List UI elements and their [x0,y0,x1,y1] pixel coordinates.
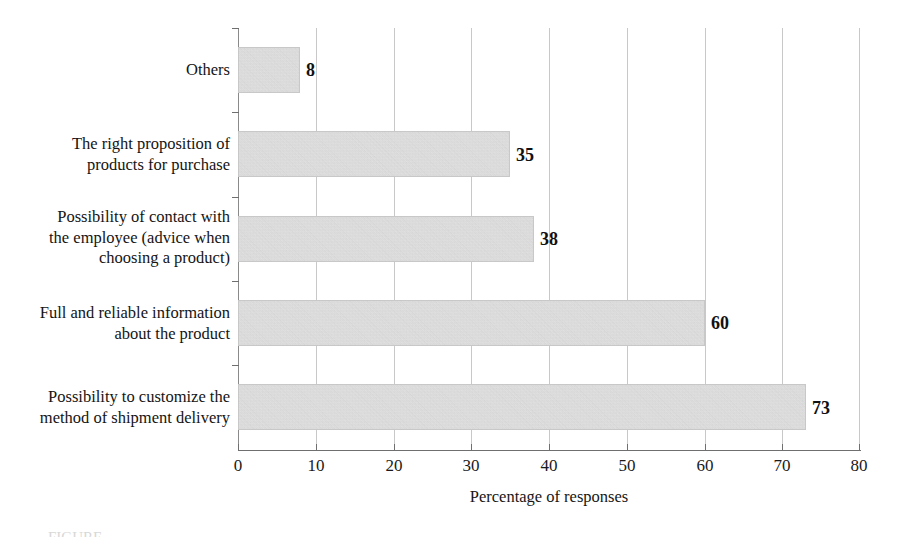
x-tick-label-50: 50 [597,456,657,476]
category-label-line: The right proposition of [8,134,230,155]
x-tick-60 [705,444,706,451]
x-tick-label-0: 0 [208,456,268,476]
x-tick-label-80: 80 [829,456,889,476]
gridline-80 [859,28,860,450]
bar-others [238,47,300,93]
category-label-line: choosing a product) [8,248,230,269]
bar-contact-with-employee [238,216,534,262]
category-label-line: Others [8,60,230,81]
x-tick-20 [394,444,395,451]
category-label-line: products for purchase [8,155,230,176]
category-label-right-proposition: The right proposition of products for pu… [8,134,230,175]
x-tick-label-40: 40 [519,456,579,476]
bar-value-others: 8 [306,60,315,80]
y-tick-2 [232,197,239,198]
x-tick-label-20: 20 [364,456,424,476]
figure-caption: FIGURE [48,528,868,537]
x-axis-title: Percentage of responses [238,487,860,507]
y-tick-3 [232,281,239,282]
y-tick-4 [232,365,239,366]
x-tick-40 [549,444,550,451]
x-tick-label-10: 10 [286,456,346,476]
bar-value-customize-shipment: 73 [812,398,830,418]
x-tick-label-70: 70 [752,456,812,476]
category-label-line: Possibility of contact with [8,207,230,228]
x-tick-label-60: 60 [675,456,735,476]
bar-chart-figure: 0 10 20 30 40 50 60 70 80 8 35 38 60 73 … [0,0,897,537]
bar-value-right-proposition: 35 [516,145,534,165]
x-tick-30 [471,444,472,451]
y-tick-1 [232,112,239,113]
y-tick-0 [232,28,239,29]
category-label-full-information: Full and reliable information about the … [8,303,230,344]
category-label-contact-with-employee: Possibility of contact with the employee… [8,207,230,269]
x-tick-label-30: 30 [441,456,501,476]
category-label-customize-shipment: Possibility to customize the method of s… [8,387,230,428]
x-tick-80 [859,444,860,451]
bar-value-full-information: 60 [711,313,729,333]
category-label-line: Possibility to customize the [8,387,230,408]
category-label-others: Others [8,60,230,81]
bar-customize-shipment [238,384,806,430]
category-label-line: Full and reliable information [8,303,230,324]
bar-full-information [238,300,705,346]
x-tick-0 [238,444,239,451]
category-label-line: the employee (advice when [8,228,230,249]
category-label-line: about the product [8,324,230,345]
category-label-line: method of shipment delivery [8,408,230,429]
bar-right-proposition [238,131,510,177]
x-tick-10 [316,444,317,451]
x-tick-50 [627,444,628,451]
bar-value-contact-with-employee: 38 [540,229,558,249]
x-tick-70 [782,444,783,451]
